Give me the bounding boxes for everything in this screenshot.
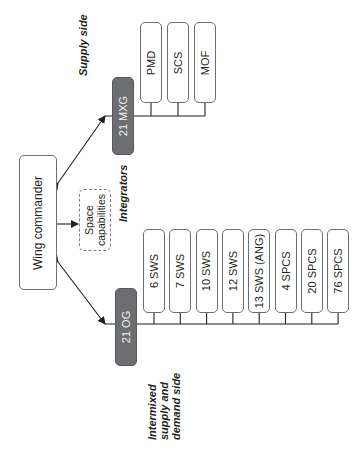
mxg-node: 21 MXG bbox=[112, 77, 134, 155]
integrators-label: Integrators bbox=[117, 165, 129, 222]
intermixed-label: Intermixed supply and demand side bbox=[146, 373, 182, 440]
child-node: 6 SWS bbox=[143, 229, 165, 313]
child-node: 4 SPCS bbox=[275, 229, 297, 313]
space-capabilities-line-1: Space bbox=[83, 194, 95, 246]
child-node-label: 10 SWS bbox=[201, 251, 213, 291]
mxg-label: 21 MXG bbox=[117, 96, 129, 136]
child-node: 76 SPCS bbox=[327, 229, 349, 313]
supply-side-label: Supply side bbox=[77, 14, 89, 76]
og-label: 21 OG bbox=[120, 311, 132, 343]
og-bus bbox=[105, 313, 338, 324]
og-node: 21 OG bbox=[115, 288, 137, 366]
child-node-label: 7 SWS bbox=[174, 254, 186, 288]
child-node-label: 13 SWS (ANG) bbox=[253, 234, 265, 309]
wing-commander-label: Wing commander bbox=[32, 175, 44, 269]
child-node: 12 SWS bbox=[222, 229, 244, 313]
child-node-label: 6 SWS bbox=[148, 254, 160, 288]
child-node: 7 SWS bbox=[169, 229, 191, 313]
child-node-label: SCS bbox=[172, 51, 184, 74]
wing-commander-node: Wing commander bbox=[19, 155, 57, 290]
child-node: SCS bbox=[167, 22, 189, 103]
child-node: PMD bbox=[140, 22, 162, 103]
child-node-label: 12 SWS bbox=[227, 251, 239, 291]
space-capabilities-node: Space capabilities bbox=[79, 189, 111, 251]
arrow-wing-to-mxg bbox=[58, 116, 105, 183]
child-node-label: 20 SPCS bbox=[306, 248, 318, 293]
child-node-label: MOF bbox=[199, 50, 211, 74]
child-node: MOF bbox=[194, 22, 216, 103]
arrow-wing-to-og bbox=[58, 262, 105, 324]
child-node-label: 4 SPCS bbox=[280, 251, 292, 290]
child-node-label: 76 SPCS bbox=[332, 248, 344, 293]
intermixed-line-3: demand side bbox=[170, 373, 182, 440]
space-capabilities-label: Space capabilities bbox=[83, 194, 107, 246]
space-capabilities-line-2: capabilities bbox=[95, 194, 107, 246]
child-node: 20 SPCS bbox=[301, 229, 323, 313]
intermixed-line-1: Intermixed bbox=[146, 373, 158, 440]
child-node: 10 SWS bbox=[196, 229, 218, 313]
intermixed-line-2: supply and bbox=[158, 373, 170, 440]
child-node-label: PMD bbox=[145, 50, 157, 74]
child-node: 13 SWS (ANG) bbox=[248, 229, 270, 313]
